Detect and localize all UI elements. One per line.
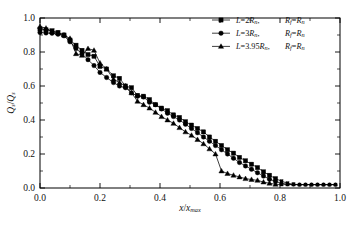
x-tick-label: 0.6 <box>214 193 226 203</box>
y-tick-label: 0.6 <box>23 81 35 91</box>
marker-square <box>249 162 253 166</box>
marker-circle <box>231 156 236 161</box>
marker-square <box>261 170 265 174</box>
marker-square <box>86 52 90 56</box>
marker-square <box>255 166 259 170</box>
marker-circle <box>249 167 254 172</box>
y-axis-tick-labels: 0.00.20.40.60.81.0 <box>23 13 35 193</box>
marker-triangle <box>141 102 146 107</box>
marker-circle <box>38 30 43 35</box>
legend-label-secondary: Rf=Rn <box>284 29 305 38</box>
marker-square <box>207 135 211 139</box>
y-tick-label: 0.0 <box>23 183 35 193</box>
legend: L=2Rn,Rf=RnL=3Rn,Rf=RnL=3.95Rn,Rf=Rn <box>212 16 305 52</box>
legend-label-secondary: Rf=Rn <box>284 42 305 51</box>
x-tick-label: 0.8 <box>274 193 286 203</box>
marker-triangle <box>85 46 90 51</box>
marker-triangle <box>171 121 176 126</box>
legend-item-1[interactable]: L=2Rn,Rf=Rn <box>212 16 305 25</box>
marker-circle <box>189 126 194 131</box>
marker-square <box>201 130 205 134</box>
marker-circle <box>86 57 91 62</box>
marker-circle <box>147 100 152 105</box>
chart-canvas: 0.00.20.40.60.81.0 0.00.20.40.60.81.0 x/… <box>0 0 349 228</box>
marker-triangle <box>73 51 78 56</box>
marker-circle <box>207 139 212 144</box>
marker-circle <box>195 131 200 136</box>
marker-triangle <box>195 137 200 142</box>
legend-label: L=3.95Rn, <box>235 42 270 51</box>
marker-circle <box>141 95 146 100</box>
marker-triangle <box>135 99 140 104</box>
marker-circle <box>153 102 158 107</box>
legend-label: L=2Rn, <box>235 16 260 25</box>
marker-circle <box>104 75 109 80</box>
marker-square <box>129 86 133 90</box>
x-tick-label: 0.0 <box>34 193 46 203</box>
legend-item-2[interactable]: L=3Rn,Rf=Rn <box>212 29 305 38</box>
marker-triangle <box>201 141 206 146</box>
marker-square <box>225 148 229 152</box>
marker-square <box>219 143 223 147</box>
marker-square <box>92 54 96 58</box>
marker-square <box>237 155 241 159</box>
marker-triangle <box>183 129 188 134</box>
x-axis-tick-labels: 0.00.20.40.60.81.0 <box>34 193 346 203</box>
marker-triangle <box>159 114 164 119</box>
marker-circle <box>243 164 248 169</box>
marker-circle <box>183 122 188 127</box>
marker-triangle <box>219 168 224 173</box>
marker-triangle <box>153 110 158 115</box>
marker-triangle <box>37 24 42 29</box>
marker-circle <box>219 148 224 153</box>
legend-label: L=3Rn, <box>235 29 260 38</box>
marker-circle <box>255 170 260 175</box>
marker-circle <box>171 114 176 119</box>
x-tick-label: 1.0 <box>334 193 346 203</box>
x-tick-label: 0.2 <box>94 193 106 203</box>
marker-triangle <box>147 105 152 110</box>
marker-circle <box>261 174 266 179</box>
marker-square <box>195 126 199 130</box>
figure-container: 0.00.20.40.60.81.0 0.00.20.40.60.81.0 x/… <box>0 0 349 228</box>
marker-square <box>219 18 223 22</box>
y-axis-label: Qs/Qs <box>6 92 16 114</box>
y-tick-label: 1.0 <box>23 13 35 23</box>
marker-square <box>243 159 247 163</box>
marker-circle <box>225 152 230 157</box>
marker-circle <box>213 143 218 148</box>
marker-circle <box>201 135 206 140</box>
x-tick-label: 0.4 <box>154 193 166 203</box>
marker-circle <box>177 118 182 123</box>
marker-triangle <box>177 125 182 130</box>
marker-circle <box>165 111 170 116</box>
marker-circle <box>219 31 224 36</box>
legend-label-secondary: Rf=Rn <box>284 16 305 25</box>
marker-circle <box>237 160 242 165</box>
marker-circle <box>159 107 164 112</box>
y-tick-label: 0.2 <box>23 149 35 159</box>
y-tick-label: 0.4 <box>23 115 35 125</box>
marker-triangle <box>189 133 194 138</box>
marker-square <box>231 151 235 155</box>
marker-triangle <box>165 117 170 122</box>
series-line <box>40 32 336 184</box>
legend-item-3[interactable]: L=3.95Rn,Rf=Rn <box>212 42 305 51</box>
marker-circle <box>98 70 103 75</box>
x-axis-label: x/xmax <box>178 203 201 213</box>
marker-square <box>213 139 217 143</box>
marker-circle <box>44 31 49 36</box>
y-tick-label: 0.8 <box>23 47 35 57</box>
marker-circle <box>92 63 97 68</box>
marker-circle <box>135 94 140 99</box>
marker-triangle <box>225 171 230 176</box>
